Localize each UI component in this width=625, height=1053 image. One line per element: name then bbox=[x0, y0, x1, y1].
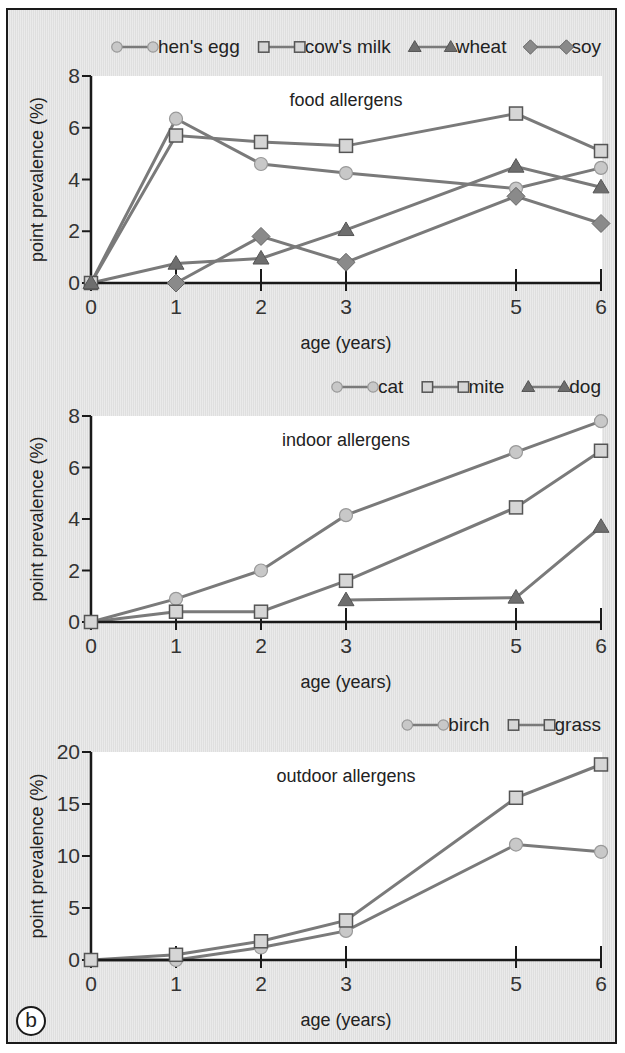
circle-marker bbox=[255, 157, 268, 170]
y-tick-label: 5 bbox=[68, 896, 80, 919]
square-marker bbox=[508, 720, 518, 730]
x-tick-label: 6 bbox=[595, 295, 607, 318]
circle-marker bbox=[148, 42, 158, 52]
legend-label: wheat bbox=[455, 36, 507, 57]
square-marker bbox=[340, 139, 353, 152]
circle-marker bbox=[255, 564, 268, 577]
circle-marker bbox=[340, 509, 353, 522]
circle-marker bbox=[595, 415, 608, 428]
square-marker bbox=[595, 444, 608, 457]
square-marker bbox=[255, 135, 268, 148]
circle-marker bbox=[340, 167, 353, 180]
chart-panel-3: outdoor allergens05101520012356age (year… bbox=[27, 714, 608, 1030]
legend-label: cow's milk bbox=[305, 36, 391, 57]
square-marker bbox=[295, 42, 305, 52]
legend-label: hen's egg bbox=[158, 36, 240, 57]
x-tick-label: 2 bbox=[255, 634, 267, 657]
x-tick-label: 6 bbox=[595, 972, 607, 995]
circle-marker bbox=[170, 112, 183, 125]
diamond-marker bbox=[523, 40, 537, 54]
panel-label-text: b bbox=[25, 1008, 37, 1032]
chart-title: food allergens bbox=[289, 90, 402, 110]
y-tick-label: 8 bbox=[68, 64, 80, 87]
square-marker bbox=[170, 948, 183, 961]
x-axis-title: age (years) bbox=[300, 333, 391, 353]
x-axis-title: age (years) bbox=[300, 1010, 391, 1030]
square-marker bbox=[259, 42, 269, 52]
x-tick-label: 1 bbox=[170, 295, 182, 318]
y-axis-title: point prevalence (%) bbox=[27, 773, 47, 938]
legend-label: birch bbox=[448, 714, 489, 735]
y-tick-label: 6 bbox=[68, 456, 80, 479]
legend-label: mite bbox=[468, 376, 504, 397]
square-marker bbox=[85, 616, 98, 629]
legend-label: dog bbox=[569, 376, 601, 397]
square-marker bbox=[255, 935, 268, 948]
x-tick-label: 0 bbox=[85, 295, 97, 318]
y-axis-title: point prevalence (%) bbox=[27, 97, 47, 262]
square-marker bbox=[510, 791, 523, 804]
x-tick-label: 3 bbox=[340, 295, 352, 318]
circle-marker bbox=[112, 42, 122, 52]
circle-marker bbox=[170, 592, 183, 605]
square-marker bbox=[170, 129, 183, 142]
square-marker bbox=[340, 914, 353, 927]
square-marker bbox=[85, 954, 98, 967]
y-tick-label: 6 bbox=[68, 116, 80, 139]
chart-panel-1: food allergens02468012356age (years)poin… bbox=[27, 36, 610, 353]
x-tick-label: 2 bbox=[255, 295, 267, 318]
y-tick-label: 4 bbox=[68, 507, 80, 530]
y-tick-label: 2 bbox=[68, 219, 80, 242]
square-marker bbox=[544, 720, 554, 730]
legend: grassbirch bbox=[402, 714, 601, 735]
square-marker bbox=[595, 145, 608, 158]
legend-label: grass bbox=[555, 714, 601, 735]
y-tick-label: 0 bbox=[68, 948, 80, 971]
y-tick-label: 0 bbox=[68, 271, 80, 294]
x-tick-label: 2 bbox=[255, 972, 267, 995]
legend-label: cat bbox=[378, 376, 404, 397]
y-tick-label: 8 bbox=[68, 404, 80, 427]
x-tick-label: 5 bbox=[510, 972, 522, 995]
x-tick-label: 3 bbox=[340, 634, 352, 657]
y-tick-label: 15 bbox=[57, 792, 80, 815]
circle-marker bbox=[595, 161, 608, 174]
legend-label: soy bbox=[571, 36, 601, 57]
panel-label-badge: b bbox=[16, 1006, 46, 1036]
circle-marker bbox=[510, 446, 523, 459]
square-marker bbox=[340, 574, 353, 587]
chart-panel-2: indoor allergens02468012356age (years)po… bbox=[27, 376, 609, 692]
square-marker bbox=[458, 382, 468, 392]
charts-canvas: food allergens02468012356age (years)poin… bbox=[0, 0, 625, 1053]
chart-title: outdoor allergens bbox=[276, 766, 415, 786]
y-tick-label: 20 bbox=[57, 740, 80, 763]
x-axis-title: age (years) bbox=[300, 672, 391, 692]
circle-marker bbox=[510, 838, 523, 851]
legend: soywheatcow's milkhen's egg bbox=[112, 36, 602, 57]
y-tick-label: 4 bbox=[68, 168, 80, 191]
x-tick-label: 3 bbox=[340, 972, 352, 995]
y-tick-label: 10 bbox=[57, 844, 80, 867]
circle-marker bbox=[595, 845, 608, 858]
square-marker bbox=[422, 382, 432, 392]
x-tick-label: 0 bbox=[85, 972, 97, 995]
circle-marker bbox=[402, 720, 412, 730]
legend: dogmitecat bbox=[332, 376, 601, 397]
circle-marker bbox=[438, 720, 448, 730]
x-tick-label: 6 bbox=[595, 634, 607, 657]
square-marker bbox=[595, 758, 608, 771]
x-tick-label: 5 bbox=[510, 295, 522, 318]
x-tick-label: 5 bbox=[510, 634, 522, 657]
y-tick-label: 2 bbox=[68, 559, 80, 582]
square-marker bbox=[510, 107, 523, 120]
chart-title: indoor allergens bbox=[282, 430, 410, 450]
x-tick-label: 0 bbox=[85, 634, 97, 657]
y-axis-title: point prevalence (%) bbox=[27, 436, 47, 601]
x-tick-label: 1 bbox=[170, 972, 182, 995]
square-marker bbox=[510, 501, 523, 514]
y-tick-label: 0 bbox=[68, 610, 80, 633]
x-tick-label: 1 bbox=[170, 634, 182, 657]
square-marker bbox=[255, 605, 268, 618]
circle-marker bbox=[368, 382, 378, 392]
square-marker bbox=[170, 605, 183, 618]
